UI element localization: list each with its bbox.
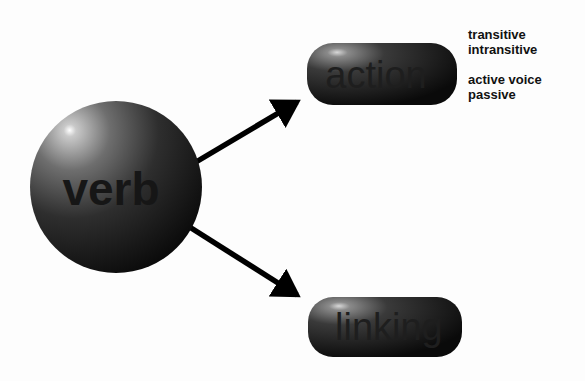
transitivity-group: transitive intransitive xyxy=(468,27,542,57)
verb-label: verb xyxy=(62,163,159,215)
arrow-to-action xyxy=(196,102,297,162)
linking-label: linking xyxy=(335,306,443,348)
verb-node: verb xyxy=(30,101,202,273)
note-transitive: transitive xyxy=(468,27,542,42)
action-label: action xyxy=(325,54,426,96)
arrow-to-linking xyxy=(188,226,297,295)
voice-group: active voice passive xyxy=(468,72,542,102)
action-node: action xyxy=(307,43,457,105)
note-active-voice: active voice xyxy=(468,72,542,87)
action-notes: transitive intransitive active voice pas… xyxy=(468,27,542,117)
linking-node: linking xyxy=(308,297,462,357)
note-passive: passive xyxy=(468,87,542,102)
note-intransitive: intransitive xyxy=(468,42,542,57)
